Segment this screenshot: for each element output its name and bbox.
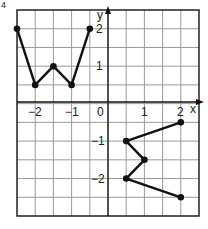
x-axis-label: x bbox=[190, 102, 196, 116]
vertex-point bbox=[14, 25, 21, 32]
vertex-point bbox=[178, 119, 185, 126]
vertex-point bbox=[123, 175, 130, 182]
vertex-point bbox=[32, 82, 39, 89]
y-tick-label: 2 bbox=[96, 22, 103, 36]
x-tick-label: 1 bbox=[141, 105, 148, 119]
vertex-point bbox=[50, 63, 57, 70]
vertex-point bbox=[68, 82, 75, 89]
coordinate-graph: 4 y x −2 −1 0 1 2 2 1 −1 −2 bbox=[0, 0, 208, 229]
vertex-point bbox=[178, 194, 185, 201]
x-tick-label: −2 bbox=[28, 105, 42, 119]
x-axis-arrow-icon bbox=[196, 99, 204, 105]
y-axis-label: y bbox=[97, 8, 103, 22]
x-tick-label: −1 bbox=[65, 105, 79, 119]
x-tick-label: 2 bbox=[177, 105, 184, 119]
figure-marker: 4 bbox=[1, 0, 6, 10]
x-tick-label: 0 bbox=[97, 105, 104, 119]
vertex-point bbox=[123, 138, 130, 145]
y-tick-label: −1 bbox=[91, 134, 105, 148]
vertex-point bbox=[141, 157, 148, 164]
y-tick-label: 1 bbox=[96, 59, 103, 73]
y-tick-label: −2 bbox=[91, 172, 105, 186]
vertex-point bbox=[87, 25, 94, 32]
